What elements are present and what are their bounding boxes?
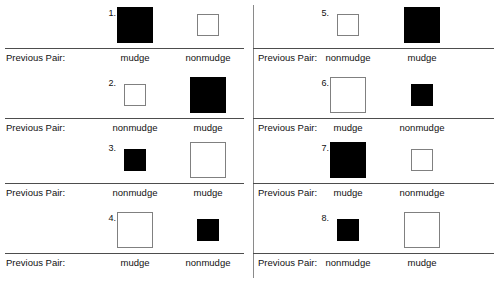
item-divider (253, 183, 494, 184)
right-column: 5. Previous Pair: nonmudge mudge 6. (250, 0, 499, 283)
stimulus-row: 8. (250, 205, 499, 252)
left-square-slot (113, 209, 157, 251)
filled-square-icon (404, 7, 440, 43)
outlined-square-icon (190, 142, 226, 178)
filled-square-icon (411, 84, 433, 106)
right-category-word: mudge (387, 51, 457, 64)
previous-pair-label: Previous Pair: (258, 51, 317, 64)
caption-row: Previous Pair: nonmudge mudge (0, 186, 249, 202)
right-square-slot (400, 209, 444, 251)
right-square-slot (186, 209, 230, 251)
trial-item: 5. Previous Pair: nonmudge mudge (250, 0, 499, 70)
right-square-slot (186, 139, 230, 181)
left-square-slot (326, 74, 370, 116)
right-category-word: nonmudge (173, 256, 243, 269)
stimulus-row: 4. (0, 205, 249, 252)
left-category-word: mudge (100, 51, 170, 64)
stimulus-row: 1. (0, 0, 249, 47)
filled-square-icon (190, 77, 226, 113)
right-category-word: mudge (387, 256, 457, 269)
right-square-slot (186, 74, 230, 116)
left-category-word: mudge (313, 121, 383, 134)
stimulus-row: 2. (0, 70, 249, 117)
left-category-word: nonmudge (100, 186, 170, 199)
left-category-word: mudge (313, 186, 383, 199)
previous-pair-label: Previous Pair: (258, 186, 317, 199)
previous-pair-label: Previous Pair: (6, 51, 65, 64)
filled-square-icon (197, 219, 219, 241)
trial-item: 1. Previous Pair: mudge nonmudge (0, 0, 249, 70)
trial-item: 7. Previous Pair: mudge nonmudge (250, 135, 499, 205)
right-square-slot (186, 4, 230, 46)
right-category-word: mudge (173, 121, 243, 134)
stimulus-sheet: 1. Previous Pair: mudge nonmudge 2. (0, 0, 499, 283)
item-divider (5, 48, 244, 49)
stimulus-row: 6. (250, 70, 499, 117)
item-divider (253, 118, 494, 119)
outlined-square-icon (337, 14, 359, 36)
previous-pair-label: Previous Pair: (6, 256, 65, 269)
item-divider (253, 48, 494, 49)
right-category-word: mudge (173, 186, 243, 199)
right-category-word: nonmudge (173, 51, 243, 64)
filled-square-icon (330, 142, 366, 178)
previous-pair-label: Previous Pair: (6, 186, 65, 199)
previous-pair-label: Previous Pair: (258, 121, 317, 134)
right-category-word: nonmudge (387, 121, 457, 134)
left-square-slot (113, 139, 157, 181)
outlined-square-icon (404, 212, 440, 248)
trial-item: 8. Previous Pair: nonmudge mudge (250, 205, 499, 275)
left-column: 1. Previous Pair: mudge nonmudge 2. (0, 0, 249, 283)
outlined-square-icon (117, 212, 153, 248)
trial-item: 4. Previous Pair: mudge nonmudge (0, 205, 249, 275)
outlined-square-icon (411, 149, 433, 171)
filled-square-icon (117, 7, 153, 43)
left-category-word: mudge (100, 256, 170, 269)
left-square-slot (326, 4, 370, 46)
right-square-slot (400, 139, 444, 181)
left-square-slot (113, 74, 157, 116)
caption-row: Previous Pair: mudge nonmudge (250, 186, 499, 202)
filled-square-icon (124, 149, 146, 171)
stimulus-row: 5. (250, 0, 499, 47)
right-category-word: nonmudge (387, 186, 457, 199)
item-divider (253, 253, 494, 254)
left-category-word: nonmudge (313, 256, 383, 269)
left-square-slot (326, 209, 370, 251)
right-square-slot (400, 74, 444, 116)
caption-row: Previous Pair: nonmudge mudge (250, 51, 499, 67)
trial-item: 3. Previous Pair: nonmudge mudge (0, 135, 249, 205)
left-category-word: nonmudge (313, 51, 383, 64)
outlined-square-icon (124, 84, 146, 106)
item-divider (5, 253, 244, 254)
stimulus-row: 7. (250, 135, 499, 182)
left-category-word: nonmudge (100, 121, 170, 134)
previous-pair-label: Previous Pair: (6, 121, 65, 134)
caption-row: Previous Pair: mudge nonmudge (0, 256, 249, 272)
previous-pair-label: Previous Pair: (258, 256, 317, 269)
trial-item: 2. Previous Pair: nonmudge mudge (0, 70, 249, 140)
stimulus-row: 3. (0, 135, 249, 182)
right-square-slot (400, 4, 444, 46)
trial-item: 6. Previous Pair: mudge nonmudge (250, 70, 499, 140)
item-divider (5, 183, 244, 184)
left-square-slot (113, 4, 157, 46)
outlined-square-icon (197, 14, 219, 36)
caption-row: Previous Pair: nonmudge mudge (250, 256, 499, 272)
caption-row: Previous Pair: mudge nonmudge (0, 51, 249, 67)
outlined-square-icon (330, 77, 366, 113)
left-square-slot (326, 139, 370, 181)
filled-square-icon (337, 219, 359, 241)
item-divider (5, 118, 244, 119)
